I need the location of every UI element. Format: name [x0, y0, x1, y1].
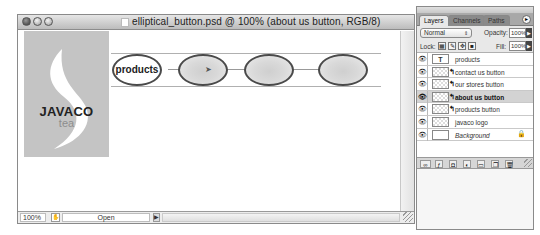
palette-resize-grip[interactable] — [524, 159, 532, 167]
our-stores-button[interactable] — [244, 54, 294, 86]
palette-empty-area — [417, 169, 533, 229]
layer-thumbnail — [432, 104, 449, 114]
layer-row-our-stores-button[interactable]: 👁 ↰ our stores button — [417, 78, 533, 91]
doc-info-field[interactable]: Open — [62, 213, 150, 222]
leaf-swirl-icon — [24, 31, 109, 157]
layer-style-icon[interactable]: ƒ — [435, 160, 443, 168]
lock-all-icon[interactable]: ■ — [468, 42, 476, 50]
document-icon — [121, 18, 129, 27]
status-bar: 100% ✋ Open ▶ — [18, 211, 414, 223]
layer-row-products[interactable]: 👁 T products — [417, 53, 533, 66]
zoom-level-field[interactable]: 100% — [20, 213, 46, 222]
new-group-icon[interactable]: ▭ — [477, 160, 485, 168]
guide-line-bottom — [111, 86, 381, 87]
text-layer-icon: T — [432, 54, 449, 64]
hand-icon[interactable]: ✋ — [51, 213, 60, 222]
eye-icon[interactable]: 👁 — [417, 66, 428, 78]
stepper-icon: ⇕ — [464, 30, 470, 36]
lock-position-icon[interactable]: ✥ — [458, 42, 466, 50]
layer-thumbnail — [432, 130, 449, 140]
vertical-scrollbar[interactable] — [400, 31, 414, 211]
fill-slider-arrow[interactable]: ▶ — [526, 41, 532, 51]
layer-row-javaco-logo[interactable]: 👁 javaco logo — [417, 116, 533, 129]
layer-thumbnail — [432, 117, 449, 127]
eye-icon[interactable]: 👁 — [417, 129, 428, 141]
eye-icon[interactable]: 👁 — [417, 53, 428, 65]
tab-layers[interactable]: Layers — [419, 15, 449, 26]
close-button[interactable] — [22, 17, 31, 26]
products-button-label: products — [114, 64, 160, 75]
lock-label: Lock: — [420, 43, 436, 50]
products-button[interactable]: products — [112, 54, 162, 86]
fill-field[interactable]: 100% — [509, 41, 526, 51]
minimize-button[interactable] — [33, 17, 42, 26]
resize-grip[interactable] — [403, 212, 413, 222]
lock-pixels-icon[interactable]: ✎ — [448, 42, 456, 50]
layers-list: 👁 T products 👁 ↰ contact us button 👁 ↰ o… — [417, 53, 533, 157]
layer-row-about-us-button[interactable]: 👁 ↰ about us button — [417, 91, 533, 104]
layer-mask-icon[interactable]: ◘ — [449, 160, 457, 168]
zoom-button[interactable] — [44, 17, 53, 26]
eye-icon[interactable]: 👁 — [417, 116, 428, 128]
blend-mode-select[interactable]: Normal ⇕ — [420, 28, 472, 38]
eye-icon[interactable]: 👁 — [417, 103, 428, 115]
layer-row-contact-us-button[interactable]: 👁 ↰ contact us button — [417, 66, 533, 79]
photoshop-screen: elliptical_button.psd @ 100% (about us b… — [0, 0, 540, 235]
document-window: elliptical_button.psd @ 100% (about us b… — [17, 14, 415, 224]
logo-sub: tea — [24, 117, 109, 129]
tab-paths[interactable]: Paths — [483, 15, 510, 26]
layer-row-background[interactable]: 👁 Background 🔒 — [417, 129, 533, 142]
layers-palette: Layers Channels Paths ▸ Normal ⇕ Opacity… — [416, 6, 534, 230]
palette-menu-icon[interactable]: ▸ — [522, 15, 531, 24]
window-title: elliptical_button.psd @ 100% (about us b… — [132, 16, 380, 27]
new-layer-icon[interactable]: ❐ — [491, 160, 499, 168]
palette-tabs: Layers Channels Paths ▸ — [417, 14, 533, 26]
opacity-label: Opacity: — [484, 29, 508, 36]
lock-icon: 🔒 — [517, 130, 526, 138]
layer-thumbnail — [432, 92, 449, 102]
opacity-field[interactable]: 100% — [509, 28, 526, 38]
horizontal-scrollbar[interactable] — [162, 213, 400, 222]
lock-transparency-icon[interactable]: ▦ — [438, 42, 446, 50]
layer-thumbnail — [432, 67, 449, 77]
about-us-button[interactable] — [178, 54, 228, 86]
opacity-slider-arrow[interactable]: ▶ — [526, 28, 532, 38]
canvas[interactable]: JAVACO tea products ➤ — [18, 31, 400, 211]
eye-icon[interactable]: 👁 — [417, 78, 428, 90]
pointer-cursor-icon: ➤ — [205, 65, 212, 74]
doc-info-menu-arrow[interactable]: ▶ — [153, 213, 160, 222]
layer-row-products-button[interactable]: 👁 ↰ products button — [417, 103, 533, 116]
title-bar[interactable]: elliptical_button.psd @ 100% (about us b… — [18, 15, 414, 30]
delete-layer-icon[interactable]: 🗑 — [505, 160, 513, 168]
lock-row: Lock: ▦ ✎ ✥ ■ Fill: 100% ▶ — [417, 40, 533, 53]
palette-bottom-toolbar: ∞ ƒ ◘ ◐ ▭ ❐ 🗑 — [417, 157, 533, 169]
contact-us-button[interactable] — [318, 54, 368, 86]
blend-row: Normal ⇕ Opacity: 100% ▶ — [417, 26, 533, 40]
fill-label: Fill: — [496, 43, 506, 50]
eye-icon[interactable]: 👁 — [417, 91, 428, 103]
tab-channels[interactable]: Channels — [448, 15, 485, 26]
adjustment-layer-icon[interactable]: ◐ — [463, 160, 471, 168]
palette-title-bar[interactable] — [417, 7, 533, 14]
link-layers-icon[interactable]: ∞ — [420, 160, 431, 168]
layer-thumbnail — [432, 79, 449, 89]
javaco-logo: JAVACO tea — [24, 31, 109, 157]
